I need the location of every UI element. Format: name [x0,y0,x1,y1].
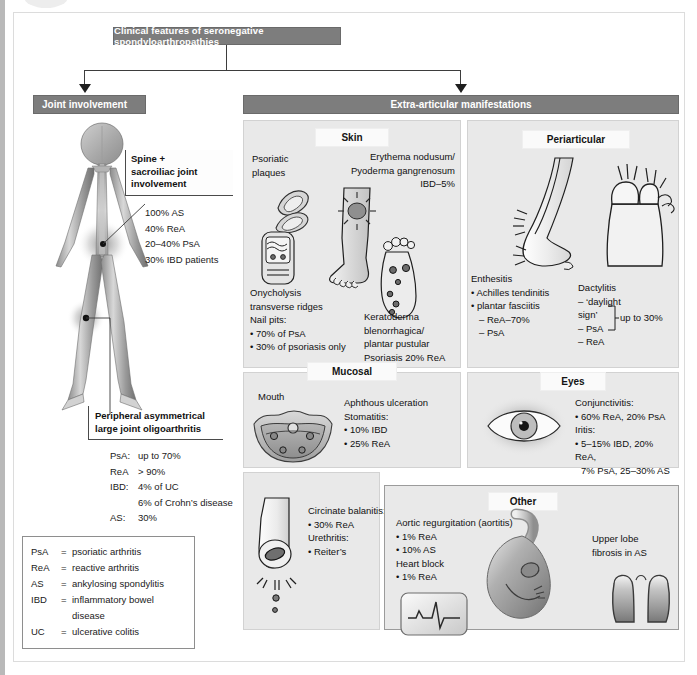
erythema-nodosum-label: Erythema nodusum/ Pyoderma gangrenosum I… [300,150,455,191]
spine-stat: 100% AS [145,205,218,221]
dactylitis-bracket-icon [607,305,619,331]
spine-stat: 30% IBD patients [145,252,218,268]
eyes-line2: • 60% ReA, 20% PsA [575,410,677,424]
circinate-balanitis-icon [255,498,311,618]
diagram-title: Clinical features of seronegative spondy… [113,27,341,45]
spine-heading-line2: sacroiliac joint [131,166,229,179]
dactylitis-foot-icon [600,158,678,276]
connector-horizontal [84,70,461,71]
spine-heading-line1: Spine + [131,153,229,166]
eye-icon [478,394,570,458]
peripheral-statistics: PsA: up to 70% ReA > 90% IBD: 4% of UC 6… [110,448,233,526]
peripheral-stat-key: PsA: [110,448,138,464]
arrow-to-extra-articular [455,84,467,93]
legend-row: PsA = psoriatic arthritis [31,544,186,560]
peripheral-stat-value: 6% of Crohn’s disease [138,495,233,511]
legend-row: ReA = reactive arthritis [31,560,186,576]
enthesitis-text: Enthesitis • Achilles tendinitis • plant… [471,272,579,340]
nail-line1: Onycholysis [250,286,380,300]
nail-line5: • 30% of psoriasis only [250,340,380,354]
legend-abbr: ReA [31,560,61,576]
legend-row: IBD = inflammatory bowel disease [31,592,186,624]
diagram-page: Clinical features of seronegative spondy… [0,0,697,675]
dactylitis-line1: Dactylitis [578,281,638,295]
nail-line3: Nail pits: [250,313,380,327]
keratoderma-line3: plantar pustular [364,337,460,351]
mucosal-line4: • 25% ReA [344,437,456,451]
panel-title-other: Other [488,492,558,511]
enthesitis-line5: – PsA [471,326,579,340]
arrow-to-joint-involvement [79,84,91,93]
mouth-label: Mouth [258,390,284,404]
connector-left-drop [84,70,85,84]
sole-keratoderma-icon [372,234,426,322]
connector-stem [226,45,227,70]
legend-abbr: UC [31,624,61,640]
spine-stat: 20–40% PsA [145,236,218,252]
erythema-line1: Erythema nodusum/ [300,150,455,164]
mucosal-line3: • 10% IBD [344,423,456,437]
legend-equals: = [61,576,72,592]
keratoderma-line2: blenorrhagica/ [364,324,460,338]
keratoderma-line1: Keratoderma [364,310,460,324]
panel-title-eyes: Eyes [540,372,606,391]
legend-text: inflammatory bowel disease [72,592,186,624]
erythema-line2: Pyoderma gangrenosum [300,164,455,178]
eyes-line1: Conjunctivitis: [575,396,677,410]
legend-text: reactive arthritis [72,560,139,576]
legend-equals: = [61,560,72,576]
lungs-illustration [608,570,676,628]
joint-involvement-column: Spine + sacroiliac joint involvement 100… [18,118,236,658]
legend-row: AS = ankylosing spondylitis [31,576,186,592]
legend-abbr: AS [31,576,61,592]
branch-header-extra-articular: Extra-articular manifestations [243,95,679,114]
legend-row: UC = ulcerative colitis [31,624,186,640]
peripheral-arthritis-heading: Peripheral asymmetrical large joint olig… [88,406,223,440]
eyes-line5: 7% PsA, 25–30% AS [575,464,677,478]
spine-heading-line3: involvement [131,178,229,191]
lung-line2: fibrosis in AS [592,546,676,560]
legend-text: ankylosing spondylitis [72,576,164,592]
peripheral-stat-key: ReA [110,464,138,480]
nail-findings-text: Onycholysis transverse ridges Nail pits:… [250,286,380,354]
peripheral-stat-key: AS: [110,510,138,526]
ecg-trace-icon [400,592,468,636]
spine-stat: 40% ReA [145,221,218,237]
psoriatic-plaque-icon [274,186,326,234]
peripheral-stat-row: IBD: 4% of UC [110,479,233,495]
branch-header-joint: Joint involvement [33,95,146,114]
peripheral-stat-value: > 90% [138,464,165,480]
peripheral-stat-row: ReA > 90% [110,464,233,480]
mucosal-line1: Aphthous ulceration [344,396,456,410]
panel-title-periarticular: Periarticular [522,130,630,149]
nail-line2: transverse ridges [250,300,380,314]
dactylitis-line4: – ReA [578,335,638,349]
enthesitis-line2: • Achilles tendinitis [471,286,579,300]
eyes-text: Conjunctivitis: • 60% ReA, 20% PsA Iriti… [575,396,677,477]
peripheral-stat-key: IBD: [110,479,138,495]
dactylitis-bracket-label: up to 30% [620,311,663,325]
peripheral-stat-row: 6% of Crohn’s disease [110,495,233,511]
abbreviation-legend: PsA = psoriatic arthritis ReA = reactive… [22,536,195,649]
spine-statistics: 100% AS 40% ReA 20–40% PsA 30% IBD patie… [145,205,218,267]
panel-title-mucosal: Mucosal [307,362,397,381]
legend-abbr: IBD [31,592,61,624]
mucosal-line2: Stomatitis: [344,410,456,424]
enthesitis-line4: – ReA–70% [471,313,579,327]
eyes-line3: Iritis: [575,423,677,437]
aphthous-ulceration-text: Aphthous ulceration Stomatitis: • 10% IB… [344,396,456,450]
spine-sacroiliac-heading: Spine + sacroiliac joint involvement [125,150,233,196]
peripheral-stat-row: PsA: up to 70% [110,448,233,464]
legend-equals: = [61,624,72,640]
achilles-enthesitis-icon [503,158,595,280]
top-edge-artifact [24,0,68,8]
peripheral-stat-value: 30% [138,510,157,526]
legend-equals: = [61,544,72,560]
lung-line1: Upper lobe [592,532,676,546]
connector-right-drop [460,70,461,84]
mouth-aphthous-icon [250,404,336,466]
nail-onycholysis-icon [256,228,300,288]
peripheral-heading-line2: large joint oligoarthritis [95,423,219,436]
heart-illustration [478,512,562,622]
legend-text: psoriatic arthritis [72,544,141,560]
